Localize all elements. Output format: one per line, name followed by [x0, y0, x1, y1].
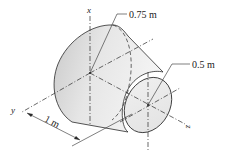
y-axis-label: y [10, 105, 15, 115]
small-radius-label: 0.5 m [192, 59, 215, 70]
length-label: 1 m [43, 113, 62, 130]
x-axis-label: x [86, 5, 91, 15]
dimension-arrow-start [27, 113, 33, 117]
large-radius-label: 0.75 m [129, 9, 157, 20]
dimension-arrow-end [74, 136, 80, 140]
frustum-diagram: x y z 0.75 m 0.5 m 1 m [0, 0, 228, 154]
z-axis-label: z [184, 124, 194, 129]
